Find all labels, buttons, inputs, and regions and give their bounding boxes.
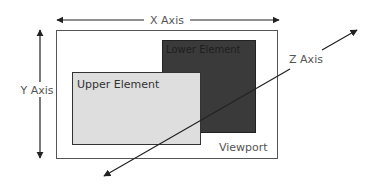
viewport-label: Viewport [219, 141, 268, 154]
x-axis-label: X Axis [150, 14, 184, 27]
upper-element-label: Upper Element [77, 78, 160, 91]
z-axis-label: Z Axis [289, 53, 323, 66]
viewport-axes-diagram: Lower Element Upper Element Viewport X A… [0, 0, 372, 190]
y-axis-label: Y Axis [19, 84, 53, 97]
lower-element-label: Lower Element [166, 44, 241, 55]
z-axis-arrow-up-right [322, 30, 357, 50]
